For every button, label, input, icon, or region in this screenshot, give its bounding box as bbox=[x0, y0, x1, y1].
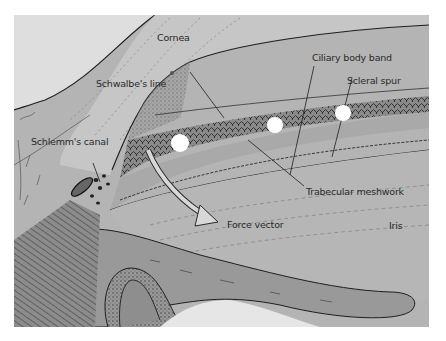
label-schwalbes-line: Schwalbe's line bbox=[96, 78, 166, 89]
label-ciliary-body-band: Ciliary body band bbox=[312, 52, 392, 63]
label-schlemms-canal: Schlemm's canal bbox=[31, 136, 108, 147]
anatomy-figure: Cornea Schwalbe's line Ciliary body band… bbox=[14, 15, 429, 327]
label-trabecular-meshwork: Trabecular meshwork bbox=[306, 186, 404, 197]
label-cornea: Cornea bbox=[157, 32, 190, 43]
label-scleral-spur: Scleral spur bbox=[347, 75, 401, 86]
laser-spot-1 bbox=[171, 134, 189, 152]
laser-spot-3 bbox=[335, 105, 351, 121]
laser-spot-2 bbox=[267, 117, 283, 133]
label-force-vector: Force vector bbox=[227, 219, 283, 230]
label-iris: Iris bbox=[389, 220, 403, 231]
